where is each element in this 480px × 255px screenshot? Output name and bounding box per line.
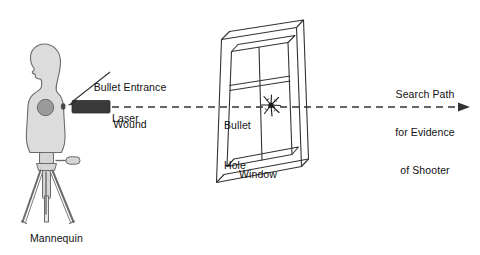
wound-marker-icon (37, 99, 53, 115)
label-search-path: Search Path for Evidence of Shooter (380, 63, 470, 202)
forensic-trajectory-diagram: Bullet Entrance Wound Laser Mannequin Bu… (0, 0, 480, 255)
tripod-icon (22, 153, 81, 224)
label-search-path-line1: Search Path (380, 88, 470, 101)
label-bullet-hole-line1: Bullet (224, 119, 251, 132)
label-bullet-entrance-wound: Bullet Entrance Wound (86, 56, 174, 155)
label-search-path-line2: for Evidence (380, 126, 470, 139)
label-search-path-line3: of Shooter (380, 164, 470, 177)
bullet-hole-starburst-icon (262, 95, 281, 116)
label-bullet-hole: Bullet Hole (224, 93, 251, 198)
tripod-pan-handle-icon (56, 157, 81, 164)
label-mannequin: Mannequin (30, 232, 83, 244)
label-bullet-entrance-wound-line1: Bullet Entrance (86, 81, 174, 93)
mannequin-icon (26, 44, 65, 153)
label-window: Window (239, 168, 277, 180)
label-laser: Laser (112, 112, 139, 124)
